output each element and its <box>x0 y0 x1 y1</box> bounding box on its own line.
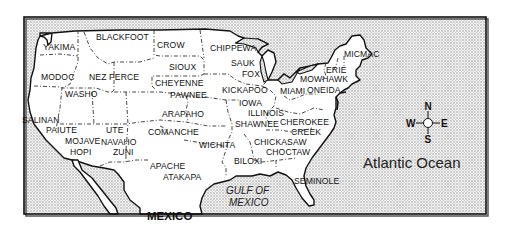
tribe-label-paiute: PAIUTE <box>46 125 77 135</box>
tribe-label-choctaw: CHOCTAW <box>266 147 311 157</box>
tribe-label-hopi: HOPI <box>70 147 91 157</box>
tribe-label-modoc: MODOC <box>41 72 74 82</box>
gulf-of-mexico-label-line2: MEXICO <box>229 197 269 208</box>
tribe-label-arapaho: ARAPAHO <box>162 109 204 119</box>
compass-west: W <box>406 118 416 129</box>
tribe-label-wichita: WICHITA <box>199 140 236 150</box>
tribe-label-micmac: MICMAC <box>344 49 379 59</box>
tribe-label-kickapoo: KICKAPOO <box>222 85 268 95</box>
tribe-label-blackfoot: BLACKFOOT <box>96 32 150 42</box>
tribe-label-comanche: COMANCHE <box>148 127 199 137</box>
tribe-label-pawnee: PAWNEE <box>170 90 207 100</box>
tribe-label-miami: MIAMI <box>280 86 305 96</box>
tribe-label-creek: CREEK <box>291 127 321 137</box>
tribe-label-chippewa: CHIPPEWA <box>210 43 256 53</box>
tribe-label-crow: CROW <box>157 40 185 50</box>
tribe-label-seminole: SEMINOLE <box>294 176 339 186</box>
tribe-label-mojave: MOJAVE <box>65 136 100 146</box>
tribe-label-oneida: ONEIDA <box>307 85 341 95</box>
gulf-of-mexico-label-line1: GULF OF <box>226 185 270 196</box>
tribe-label-apache: APACHE <box>150 161 185 171</box>
tribe-label-yakima: YAKIMA <box>43 42 76 52</box>
tribe-label-salinan: SALINAN <box>22 115 59 125</box>
tribe-label-atakapa: ATAKAPA <box>163 172 202 182</box>
tribe-label-cheyenne: CHEYENNE <box>155 78 204 88</box>
tribe-label-mowhawk: MOWHAWK <box>300 74 348 84</box>
compass-north: N <box>425 101 432 112</box>
tribe-label-navaho: NAVAHO <box>101 137 137 147</box>
tribe-label-fox: FOX <box>242 69 260 79</box>
tribe-label-ute: UTE <box>106 125 124 135</box>
tribe-label-sioux: SIOUX <box>169 62 196 72</box>
tribe-label-illinois: ILLINOIS <box>248 108 284 118</box>
mexico-label: MEXICO <box>147 210 192 222</box>
tribe-label-zuni: ZUNI <box>113 147 133 157</box>
compass-south: S <box>425 134 432 145</box>
tribe-label-shawnee: SHAWNEE <box>235 119 279 129</box>
tribe-label-cherokee: CHEROKEE <box>280 117 329 127</box>
tribe-label-sauk: SAUK <box>231 58 255 68</box>
tribes-map: YAKIMABLACKFOOTCROWCHIPPEWASIOUXSAUKFOXM… <box>0 0 510 238</box>
tribe-label-nez-perce: NEZ PERCE <box>89 72 139 82</box>
tribe-label-biloxi: BILOXI <box>234 156 262 166</box>
compass-center-icon <box>424 119 433 128</box>
compass-east: E <box>441 118 448 129</box>
tribe-label-washo: WASHO <box>65 89 98 99</box>
tribe-label-iowa: IOWA <box>239 98 262 108</box>
tribe-label-chickasaw: CHICKASAW <box>254 137 307 147</box>
atlantic-ocean-label: Atlantic Ocean <box>363 154 461 171</box>
